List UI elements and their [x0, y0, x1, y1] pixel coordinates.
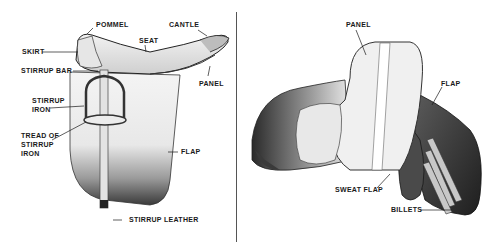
panel-divider — [236, 12, 237, 242]
label-cantle: CANTLE — [169, 21, 199, 29]
label-skirt: SKIRT — [22, 48, 45, 56]
label-billets: BILLETS — [391, 206, 422, 214]
label-pommel: POMMEL — [96, 21, 129, 29]
stirrup-leather-shape — [100, 70, 108, 208]
label-stirrup-bar: STIRRUP BAR — [21, 67, 72, 75]
label-panel-right: PANEL — [346, 21, 371, 29]
label-seat: SEAT — [139, 37, 158, 45]
left-saddle — [70, 34, 229, 208]
label-panel-left: PANEL — [199, 80, 224, 88]
label-tread-line3: IRON — [21, 150, 40, 158]
label-tread-line2: STIRRUP — [21, 141, 54, 149]
label-flap-left: FLAP — [181, 148, 200, 156]
label-tread-line1: TREAD OF — [21, 132, 59, 140]
label-sweat-flap: SWEAT FLAP — [335, 186, 383, 194]
label-stirrup-leather: STIRRUP LEATHER — [129, 216, 199, 224]
saddle-illustrations — [0, 0, 500, 250]
saddle-diagram: POMMEL CANTLE SEAT SKIRT STIRRUP BAR PAN… — [0, 0, 500, 250]
label-flap-right: FLAP — [441, 80, 460, 88]
label-stirrup-iron-line1: STIRRUP — [32, 97, 65, 105]
label-stirrup-iron-line2: IRON — [32, 106, 51, 114]
stirrup-tread-shape — [84, 115, 126, 125]
